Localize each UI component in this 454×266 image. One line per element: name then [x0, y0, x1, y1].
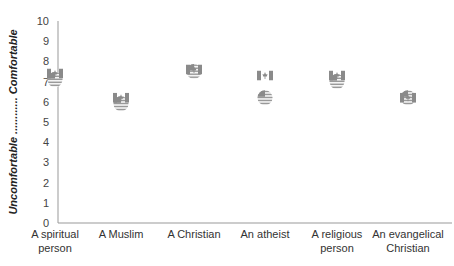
canada-flag-marker	[113, 93, 129, 103]
x-category-label: An evangelicalChristian	[372, 228, 444, 254]
y-tick-2: 2	[43, 177, 49, 189]
canada-flag-marker	[257, 71, 273, 81]
y-tick-3: 3	[43, 156, 49, 168]
x-category-label: A spiritualperson	[31, 228, 79, 254]
y-tick-4: 4	[43, 136, 49, 148]
y-axis-label: Uncomfortable ............ Comfortable	[7, 29, 19, 214]
x-category-labels: A spiritualpersonA MuslimA ChristianAn a…	[31, 228, 444, 254]
canada-flag-marker	[186, 64, 202, 74]
canada-flag-marker	[47, 69, 63, 79]
svg-text:Uncomfortable ............ Com: Uncomfortable ............ Comfortable	[7, 29, 19, 214]
x-category-label: A Christian	[167, 228, 220, 240]
y-tick-6: 6	[43, 96, 49, 108]
y-tick-10: 10	[37, 15, 49, 27]
y-tick-8: 8	[43, 55, 49, 67]
y-tick-labels: 012345678910	[37, 15, 49, 229]
x-category-label: An atheist	[241, 228, 290, 240]
y-tick-5: 5	[43, 116, 49, 128]
data-markers	[47, 64, 416, 112]
comfort-scatter-chart: Uncomfortable ............ Comfortable 0…	[0, 0, 454, 266]
us-flag-marker	[257, 90, 273, 106]
canada-flag-marker	[329, 71, 345, 81]
y-tick-1: 1	[43, 197, 49, 209]
canada-flag-marker	[400, 93, 416, 103]
y-tick-9: 9	[43, 35, 49, 47]
x-category-label: A religiousperson	[312, 228, 363, 254]
x-category-label: A Muslim	[99, 228, 144, 240]
